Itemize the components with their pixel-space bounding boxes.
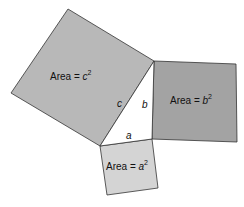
side-c-label: c <box>117 98 122 109</box>
area-b-label: Area = b2 <box>170 93 212 106</box>
pythagorean-diagram: Area = c2 Area = b2 Area = a2 c b a <box>0 0 244 207</box>
area-c-label: Area = c2 <box>50 69 92 82</box>
side-b-label: b <box>142 99 148 110</box>
area-a-label: Area = a2 <box>106 159 148 172</box>
side-a-label: a <box>126 130 132 141</box>
